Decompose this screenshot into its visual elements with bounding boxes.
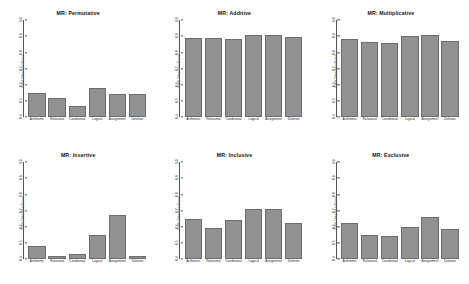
bar	[341, 39, 358, 117]
y-axis-tick: 0.8	[176, 50, 183, 55]
x-axis-tick-label: Relational	[203, 260, 223, 272]
bar	[185, 38, 202, 117]
x-axis-tick-label: Logical	[87, 260, 107, 272]
y-axis-tick: 0.8	[333, 192, 340, 197]
y-axis-tick: 0.4	[333, 257, 340, 262]
y-axis-tick: 0.6	[333, 224, 340, 229]
x-axis-tick-label: Assignment	[264, 260, 284, 272]
y-axis-tick: 0.6	[20, 82, 27, 87]
bar-series	[27, 162, 147, 259]
bar	[381, 236, 398, 259]
tick-label: 0.6	[176, 224, 179, 229]
bar	[265, 209, 282, 259]
tick-label: 0.9	[176, 34, 179, 39]
y-axis-tick: 0.4	[20, 115, 27, 120]
bar-slot	[420, 162, 440, 259]
bar-slot	[264, 20, 284, 117]
panel-title: MR: Additive	[156, 10, 312, 16]
bar-slot	[203, 162, 223, 259]
y-axis-tick: 1.0	[20, 160, 27, 165]
y-axis-tick: 0.8	[20, 192, 27, 197]
x-axis-tick-label: Arithmetic	[340, 118, 360, 130]
bar	[421, 35, 438, 117]
bar-slot	[87, 162, 107, 259]
y-axis-tick: 0.9	[176, 176, 183, 181]
bar	[361, 42, 378, 117]
bar-series	[340, 20, 460, 117]
bar-slot	[380, 162, 400, 259]
bar-slot	[440, 162, 460, 259]
y-axis-tick: 0.5	[176, 240, 183, 245]
bar-slot	[47, 162, 67, 259]
x-axis-tick-label: Assignment	[107, 260, 127, 272]
x-axis-tick-label: Logical	[400, 118, 420, 130]
tick-label: 0.5	[333, 240, 336, 245]
chart-panel: MR: InsertiveFault Detection Score0.40.5…	[0, 142, 156, 284]
y-axis-tick: 1.0	[176, 18, 183, 23]
x-axis-tick-label: Relational	[360, 260, 380, 272]
tick-label: 1.0	[176, 160, 179, 165]
tick-label: 0.6	[333, 224, 336, 229]
tick-label: 0.6	[20, 82, 23, 87]
tick-label: 0.8	[333, 50, 336, 55]
tick-label: 0.5	[176, 98, 179, 103]
plot-area: 0.40.50.60.70.80.91.0	[27, 162, 147, 259]
tick-label: 1.0	[333, 18, 336, 23]
bar-series	[183, 20, 303, 117]
chart-panel: MR: ExclusiveFault Detection Score0.40.5…	[313, 142, 469, 284]
bar	[245, 35, 262, 117]
y-axis-tick: 0.6	[333, 82, 340, 87]
y-axis-tick: 0.9	[176, 34, 183, 39]
tick-label: 0.6	[333, 82, 336, 87]
x-axis-tick-label: Logical	[87, 118, 107, 130]
y-axis-tick: 0.9	[333, 34, 340, 39]
plot-area: 0.40.50.60.70.80.91.0	[340, 20, 460, 117]
bar-slot	[127, 162, 147, 259]
tick-label: 0.4	[333, 115, 336, 120]
y-axis-tick: 1.0	[333, 18, 340, 23]
bar-slot	[340, 20, 360, 117]
x-axis-tick-label: Conditional	[380, 118, 400, 130]
chart-panel: MR: MultiplicativeFault Detection Score0…	[313, 0, 469, 142]
tick-label: 0.9	[20, 34, 23, 39]
tick-label: 0.7	[176, 208, 179, 213]
x-axis-tick-label: Conditional	[67, 260, 87, 272]
bar-series	[27, 20, 147, 117]
x-axis-tick-label: Arithmetic	[183, 118, 203, 130]
bar	[28, 246, 45, 259]
bar	[205, 38, 222, 117]
tick-label: 0.5	[20, 240, 23, 245]
bar	[341, 223, 358, 259]
x-axis-tick-label: Logical	[244, 118, 264, 130]
chart-panel: MR: PermutativeFault Detection Score0.40…	[0, 0, 156, 142]
x-axis-labels: ArithmeticRelationalConditionalLogicalAs…	[27, 260, 147, 272]
x-axis-tick-label: Relational	[47, 260, 67, 272]
y-axis-tick: 0.5	[20, 98, 27, 103]
bar	[401, 36, 418, 117]
x-axis-tick-label: Arithmetic	[27, 260, 47, 272]
x-axis-tick-label: Arithmetic	[27, 118, 47, 130]
x-axis-labels: ArithmeticRelationalConditionalLogicalAs…	[27, 118, 147, 130]
x-axis-tick-label: Assignment	[107, 118, 127, 130]
y-axis-tick: 0.7	[176, 208, 183, 213]
tick-label: 0.9	[176, 176, 179, 181]
x-axis-tick-label: Relational	[203, 118, 223, 130]
bar	[265, 35, 282, 117]
x-axis-tick-label: Conditional	[380, 260, 400, 272]
bar-slot	[380, 20, 400, 117]
x-axis-tick-label: Logical	[244, 260, 264, 272]
y-axis-tick: 0.8	[20, 50, 27, 55]
tick-label: 0.4	[176, 257, 179, 262]
bar-slot	[244, 20, 264, 117]
x-axis-labels: ArithmeticRelationalConditionalLogicalAs…	[340, 118, 460, 130]
bar-slot	[67, 162, 87, 259]
x-axis-labels: ArithmeticRelationalConditionalLogicalAs…	[183, 118, 303, 130]
panel-title: MR: Multiplicative	[313, 10, 469, 16]
x-axis-tick-label: Deletion	[284, 118, 304, 130]
tick-label: 0.4	[20, 115, 23, 120]
y-axis-tick: 1.0	[176, 160, 183, 165]
y-axis-tick: 0.4	[20, 257, 27, 262]
x-axis-tick-label: Deletion	[440, 260, 460, 272]
bar	[89, 88, 106, 117]
bar-slot	[400, 20, 420, 117]
